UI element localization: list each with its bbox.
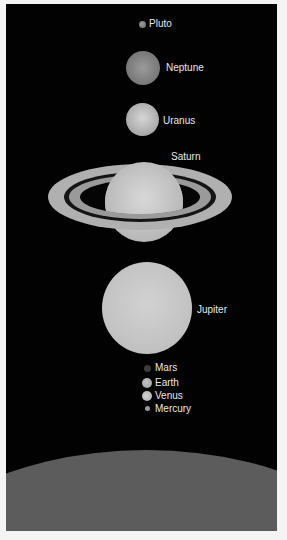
sun-surface <box>6 450 277 531</box>
mars-planet <box>144 365 151 372</box>
mercury-label: Mercury <box>155 403 191 415</box>
earth-planet <box>142 378 152 388</box>
venus-planet <box>142 391 152 401</box>
venus-label: Venus <box>155 390 183 402</box>
jupiter-label: Jupiter <box>197 304 227 316</box>
jupiter-planet <box>102 262 192 354</box>
mars-label: Mars <box>155 362 177 374</box>
planet-size-diagram: Pluto Neptune Uranus Saturn <box>6 4 277 531</box>
earth-label: Earth <box>155 377 179 389</box>
mercury-planet <box>145 406 150 411</box>
saturn-planet <box>6 4 277 264</box>
